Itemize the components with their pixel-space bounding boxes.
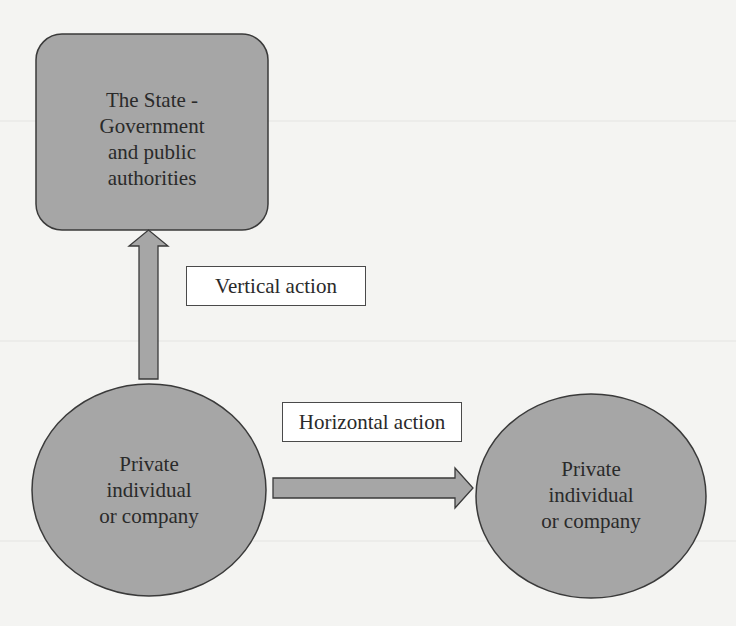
horizontal-arrow-icon — [273, 468, 473, 508]
vertical-action-text: Vertical action — [215, 274, 337, 299]
vertical-action-label: Vertical action — [186, 266, 366, 306]
diagram-canvas — [0, 0, 736, 626]
private-left-node-shape — [32, 384, 266, 596]
horizontal-action-text: Horizontal action — [299, 410, 445, 435]
private-right-node-shape — [476, 394, 706, 598]
vertical-arrow-icon — [129, 230, 168, 379]
state-node-shape — [36, 34, 268, 230]
horizontal-action-label: Horizontal action — [282, 402, 462, 442]
